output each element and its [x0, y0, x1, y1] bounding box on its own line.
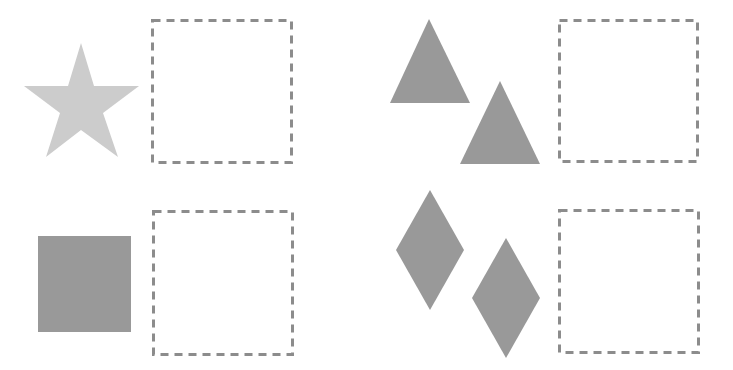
star-panel [24, 21, 292, 163]
square-panel [38, 212, 293, 355]
diamond-icon [396, 190, 464, 310]
answer-drop-box[interactable] [560, 211, 699, 353]
answer-drop-box[interactable] [560, 21, 698, 162]
triangle-icon [390, 19, 470, 103]
diamond-icon [472, 238, 540, 358]
square-icon [38, 236, 131, 332]
diamond-panel [396, 190, 699, 358]
answer-drop-box[interactable] [153, 21, 292, 163]
triangle-icon [460, 81, 540, 164]
triangle-panel [390, 19, 698, 164]
answer-drop-box[interactable] [154, 212, 293, 355]
shape-matching-canvas [0, 0, 733, 370]
star-icon [24, 43, 139, 157]
